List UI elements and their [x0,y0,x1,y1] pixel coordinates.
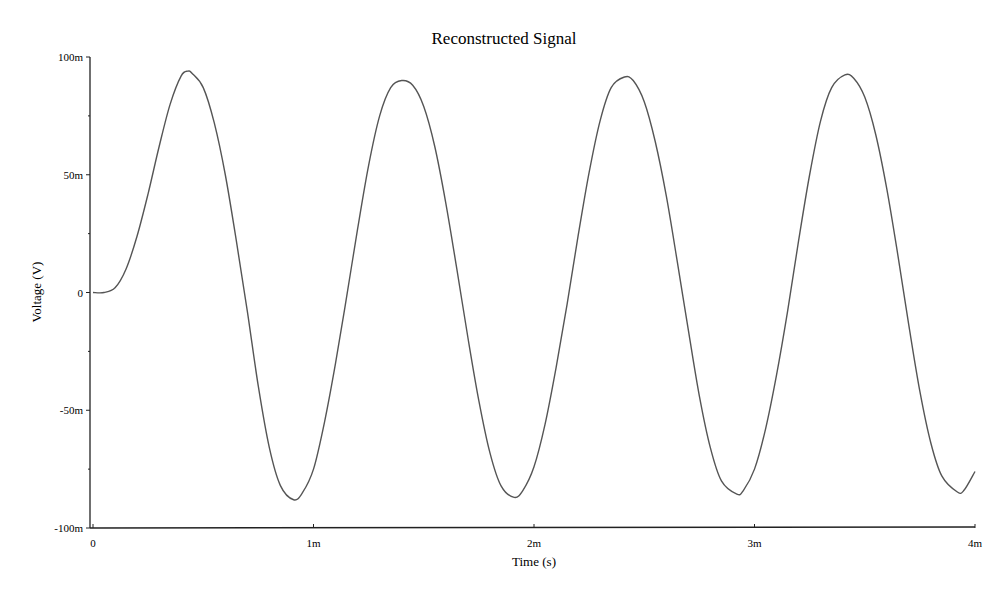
x-tick-label: 4m [968,537,983,549]
x-axis: 01m2m3m4m [90,524,982,549]
chart: Reconstructed Signal 100m50m0-50m-100m 0… [0,0,1006,592]
y-tick-label: 0 [78,287,84,299]
y-axis: 100m50m0-50m-100m [54,51,90,534]
chart-title: Reconstructed Signal [432,29,577,48]
y-tick-label: 50m [63,169,83,181]
signal-line [93,71,975,500]
x-tick-label: 1m [306,537,321,549]
y-tick-label: -50m [60,404,84,416]
plot-area [93,71,975,500]
y-axis-label: Voltage (V) [29,262,44,323]
x-tick-label: 0 [90,537,96,549]
x-axis-label: Time (s) [512,554,556,569]
y-tick-label: -100m [54,522,83,534]
x-tick-label: 3m [747,537,762,549]
y-tick-label: 100m [58,51,84,63]
x-axis-line [90,527,975,528]
x-tick-label: 2m [527,537,542,549]
